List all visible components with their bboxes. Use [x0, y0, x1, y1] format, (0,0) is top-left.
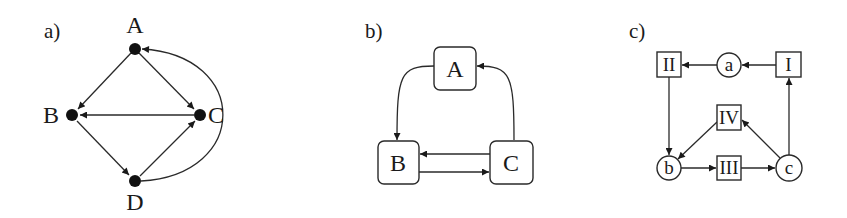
panel-a-label: a) — [44, 19, 60, 43]
node-label: b — [664, 157, 674, 178]
node-label: D — [126, 189, 143, 215]
node-label: B — [43, 102, 59, 128]
node-label: A — [126, 12, 144, 38]
node-a-A: A — [126, 12, 144, 55]
node-c-IV: IV — [717, 105, 741, 130]
edge-a-D-C — [140, 121, 195, 176]
panel-c-label: c) — [629, 19, 645, 43]
edge-a-B-D — [77, 121, 129, 175]
node-c-c: c — [776, 155, 802, 181]
node-b-B: B — [378, 141, 419, 184]
node-label: III — [720, 157, 739, 178]
panel-c: c) II a I IV b — [629, 19, 802, 181]
node-c-a: a — [717, 53, 741, 77]
node-c-III: III — [717, 156, 741, 180]
panel-a: a) A B C D — [43, 12, 224, 215]
panel-b-label: b) — [365, 19, 383, 43]
edge-b-C-A-curved — [477, 66, 514, 140]
node-c-II: II — [657, 52, 681, 77]
node-a-B: B — [43, 102, 78, 128]
node-a-C: C — [194, 102, 224, 128]
node-label: C — [503, 150, 519, 176]
node-b-A: A — [434, 47, 476, 90]
edge-c-IV-b — [678, 122, 717, 159]
node-label: c — [785, 157, 793, 178]
node-label: II — [663, 54, 676, 75]
node-c-I: I — [776, 52, 801, 77]
edge-b-A-B-curved — [397, 66, 434, 140]
node-label: A — [446, 56, 464, 82]
node-label: a — [725, 54, 734, 75]
node-label: C — [208, 102, 224, 128]
node-label: B — [390, 150, 406, 176]
diagram-canvas: a) A B C D b) — [0, 0, 847, 218]
edge-a-A-B — [78, 53, 131, 109]
node-label: I — [785, 54, 791, 75]
node-b-C: C — [490, 141, 533, 184]
node-label: IV — [719, 107, 739, 128]
edge-a-A-C — [139, 53, 194, 109]
panel-b: b) A B C — [365, 19, 533, 184]
edge-c-c-IV — [742, 120, 780, 158]
node-c-b: b — [657, 156, 681, 180]
